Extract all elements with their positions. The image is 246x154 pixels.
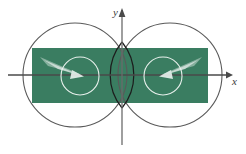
x-axis-label: x (231, 75, 237, 87)
y-axis-label: y (112, 6, 118, 18)
geometry-figure: y x (0, 0, 246, 154)
